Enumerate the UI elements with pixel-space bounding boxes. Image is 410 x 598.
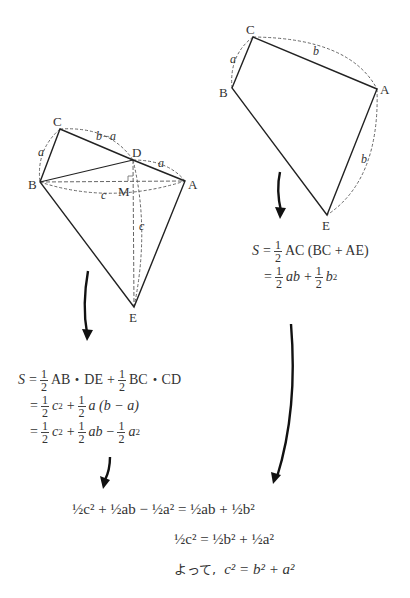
exponent: 2: [58, 428, 63, 437]
plus-sign: +: [67, 399, 75, 413]
fraction-half: 12: [274, 239, 282, 264]
edge-label-bc: a: [38, 145, 44, 159]
minus-sign: −: [107, 425, 115, 439]
formula-term: ab: [286, 270, 300, 284]
equals-sign: =: [30, 399, 38, 413]
fraction-half: 12: [118, 368, 126, 393]
equation-text: ½c² = ½b² + ½a²: [174, 532, 274, 547]
arrow-icon: [82, 271, 93, 341]
left-area-formula: S = 12 AB・DE + 12 BC・CD = 12 c2 + 12 a (…: [18, 367, 181, 445]
area-symbol: S: [252, 244, 259, 258]
plus-sign: +: [67, 425, 75, 439]
edge-label-bc: a: [230, 52, 236, 66]
formula-term: ab: [89, 425, 103, 439]
formula-term: a (b − a): [89, 399, 139, 413]
fraction-half: 12: [78, 394, 86, 419]
exponent: 2: [58, 402, 63, 411]
fraction-half: 12: [41, 420, 49, 445]
formula-term: BC・CD: [129, 373, 181, 387]
therefore-text: よって,: [174, 563, 216, 576]
edge-label-de: c: [139, 219, 145, 233]
fraction-half: 12: [40, 368, 48, 393]
equals-sign: =: [263, 244, 271, 258]
arrow-icon: [275, 172, 286, 219]
conclusion-line-3: よって, c² = b² + a²: [174, 556, 295, 582]
equals-sign: =: [29, 373, 37, 387]
exponent: 2: [333, 273, 338, 282]
formula-term: a: [128, 425, 135, 439]
equals-sign: =: [264, 270, 272, 284]
vertex-label-b: B: [219, 85, 228, 100]
edge-label-da: a: [158, 156, 164, 170]
conclusion-line-2: ½c² = ½b² + ½a²: [174, 526, 274, 552]
conclusion-line-1: ½c² + ½ab − ½a² = ½ab + ½b²: [72, 496, 255, 522]
right-quadrilateral-figure: C B A E a b b: [219, 22, 390, 233]
fraction-half: 12: [315, 265, 323, 290]
equals-sign: =: [30, 425, 38, 439]
exponent: 2: [135, 428, 140, 437]
vertex-label-e: E: [322, 218, 330, 233]
vertex-label-e: E: [129, 310, 137, 325]
plus-sign: +: [107, 373, 115, 387]
vertex-label-a: A: [188, 177, 198, 192]
edge-label-ae: b: [361, 152, 367, 166]
vertex-label-c: C: [246, 22, 255, 37]
edge-label-ba: c: [101, 188, 107, 202]
formula-term: AB・DE: [51, 373, 103, 387]
pythagorean-result: c² = b² + a²: [224, 562, 294, 577]
vertex-label-a: A: [380, 82, 390, 97]
vertex-label-d: D: [132, 145, 141, 160]
fraction-half: 12: [275, 265, 283, 290]
fraction-half: 12: [41, 394, 49, 419]
right-area-formula: S = 12 AC (BC + AE) = 12 ab + 12 b2: [252, 238, 369, 290]
formula-term: b: [326, 270, 333, 284]
vertex-label-b: B: [28, 177, 37, 192]
left-quadrilateral-figure: C D B A M E a b−a a c c: [28, 114, 198, 325]
formula-term: AC (BC + AE): [285, 244, 369, 258]
plus-sign: +: [304, 270, 312, 284]
area-symbol: S: [18, 373, 25, 387]
arrow-icon: [271, 324, 293, 484]
vertex-label-m: M: [118, 184, 130, 199]
fraction-half: 12: [78, 420, 86, 445]
arrow-icon: [100, 457, 110, 489]
edge-label-ca: b: [313, 44, 319, 58]
fraction-half: 12: [117, 420, 125, 445]
equation-text: ½c² + ½ab − ½a² = ½ab + ½b²: [72, 502, 255, 517]
vertex-label-c: C: [53, 114, 62, 129]
edge-label-cd: b−a: [96, 129, 116, 143]
